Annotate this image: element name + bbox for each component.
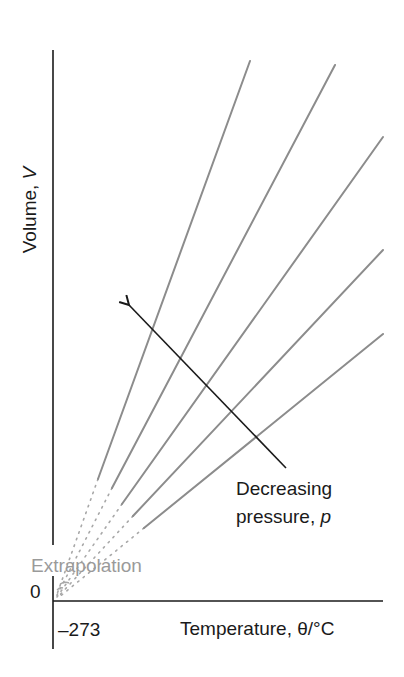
arrow-label-text: pressure, [236, 506, 320, 527]
isobar-line-2 [112, 65, 335, 488]
isobar-lines [98, 61, 383, 528]
y-axis-label-text: Volume, [19, 179, 40, 253]
y-axis-variable: V [19, 167, 40, 180]
isobar-line-3 [122, 137, 383, 504]
arrow-label-line2: pressure, p [236, 507, 331, 526]
x-tick-absolute-zero: –273 [58, 620, 100, 639]
decreasing-pressure-arrow [129, 305, 286, 468]
isobar-line-4 [133, 250, 383, 516]
pressure-variable: p [320, 506, 331, 527]
y-tick-zero: 0 [30, 582, 41, 601]
extrapolation-dotted-lines [56, 479, 144, 598]
y-axis-label: Volume, V [19, 167, 41, 254]
x-axis-label: Temperature, θ/°C [180, 619, 334, 638]
arrow-label-line1: Decreasing [236, 479, 332, 498]
extrapolation-label: Extrapolation [31, 556, 142, 575]
